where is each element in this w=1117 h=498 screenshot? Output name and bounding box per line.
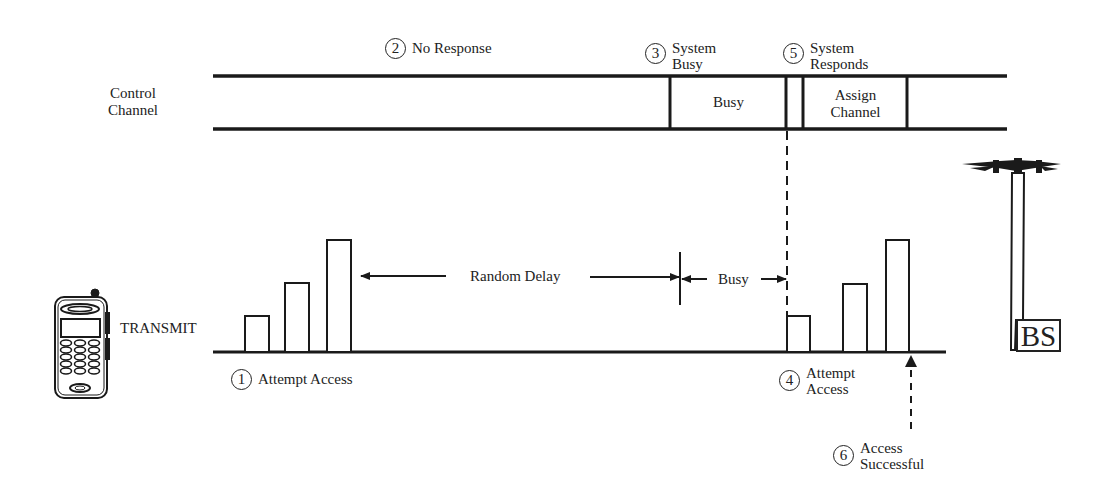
step-text-line1: Attempt	[806, 365, 855, 381]
step-text-line1: System	[672, 40, 716, 56]
mobile-phone-icon	[55, 289, 110, 398]
burst-bar	[327, 240, 351, 352]
step-4-attempt-access: 4 Attempt Access	[779, 365, 855, 397]
second-attempt-bursts	[787, 240, 909, 352]
base-station-label: BS	[1016, 319, 1061, 352]
step-number-badge: 2	[385, 38, 406, 59]
step-6-access-successful: 6 Access Successful	[833, 440, 924, 472]
step-text-line2: Busy	[672, 56, 716, 72]
assign-channel-line2: Channel	[805, 104, 906, 121]
transmit-label: TRANSMIT	[120, 320, 197, 337]
random-delay-label: Random Delay	[470, 268, 560, 285]
control-channel-label: Control Channel	[98, 85, 168, 119]
control-channel-label-line1: Control	[98, 85, 168, 102]
burst-bar	[886, 240, 909, 352]
step-text-line2: Responds	[810, 56, 868, 72]
control-channel-label-line2: Channel	[98, 102, 168, 119]
step-text-line2: Access	[806, 381, 855, 397]
step-number-badge: 6	[833, 445, 854, 466]
step-text-line1: System	[810, 40, 868, 56]
access-successful-arrow	[905, 355, 917, 432]
first-attempt-bursts	[245, 240, 351, 352]
step-3-system-busy: 3 System Busy	[645, 40, 716, 72]
step-number-badge: 1	[231, 369, 252, 390]
busy-slot-label: Busy	[672, 94, 785, 111]
burst-bar	[787, 316, 810, 352]
step-5-system-responds: 5 System Responds	[783, 40, 868, 72]
step-text-line1: Access	[860, 440, 924, 456]
assign-channel-line1: Assign	[805, 87, 906, 104]
burst-bar	[245, 316, 269, 352]
access-procedure-diagram	[0, 0, 1117, 498]
burst-bar	[843, 284, 867, 352]
step-number-badge: 3	[645, 43, 666, 64]
step-number-badge: 5	[783, 43, 804, 64]
step-number-badge: 4	[779, 370, 800, 391]
step-text-line2: Successful	[860, 456, 924, 472]
step-2-no-response: 2 No Response	[385, 38, 492, 59]
burst-bar	[285, 283, 309, 352]
step-text: No Response	[412, 40, 492, 56]
busy-interval-label: Busy	[718, 271, 749, 288]
step-text: Attempt Access	[258, 371, 353, 387]
assign-channel-slot-label: Assign Channel	[805, 87, 906, 121]
step-1-attempt-access: 1 Attempt Access	[231, 369, 353, 390]
